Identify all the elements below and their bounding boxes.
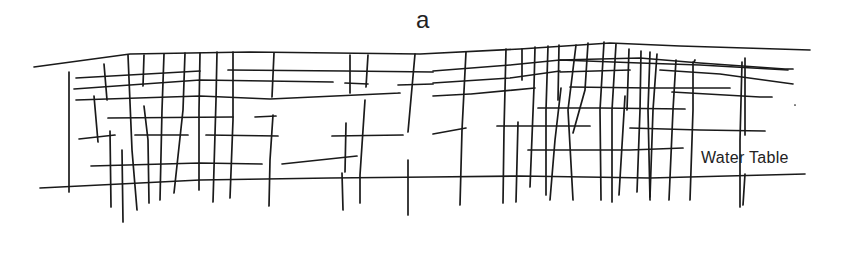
fracture-network-drawing (0, 0, 866, 254)
vertical-fracture (128, 55, 137, 210)
horizontal-fracture (206, 135, 278, 136)
vertical-fracture (558, 45, 559, 100)
vertical-fracture (174, 53, 185, 193)
vertical-fracture (516, 122, 518, 202)
horizontal-fractures (74, 58, 793, 166)
vertical-fracture (110, 131, 111, 207)
vertical-fracture (546, 46, 548, 195)
vertical-fracture (650, 54, 657, 197)
vertical-fracture (743, 174, 745, 205)
vertical-fracture (269, 115, 273, 206)
horizontal-fracture (433, 71, 560, 83)
vertical-fracture (199, 53, 200, 190)
horizontal-fracture (471, 88, 535, 94)
vertical-fracture (94, 96, 98, 142)
horizontal-fracture (560, 70, 630, 72)
horizontal-fracture (228, 70, 433, 72)
horizontal-fracture (76, 71, 200, 78)
horizontal-fracture (74, 80, 333, 89)
horizontal-fracture (332, 135, 403, 136)
fracture-diagram: a Water Table (0, 0, 866, 254)
panel-label: a (416, 6, 429, 34)
vertical-fracture (104, 64, 107, 100)
vertical-fracture (694, 60, 695, 62)
horizontal-fracture (76, 93, 400, 100)
vertical-fracture (160, 54, 164, 200)
vertical-fracture (230, 52, 233, 198)
vertical-fracture (530, 47, 535, 187)
horizontal-fracture (570, 87, 730, 88)
vertical-fracture (122, 150, 123, 222)
vertical-fracture (408, 54, 415, 132)
vertical-fracture (637, 51, 641, 192)
horizontal-fracture (660, 70, 793, 84)
vertical-fracture (143, 55, 144, 86)
vertical-fracture (342, 173, 343, 210)
vertical-fracture (690, 62, 693, 200)
vertical-fracture (366, 55, 368, 87)
horizontal-fracture (398, 84, 433, 85)
vertical-fracture (550, 88, 561, 200)
vertical-fractures (69, 42, 795, 222)
vertical-fracture (272, 53, 274, 97)
horizontal-fracture (345, 83, 368, 84)
water-table-label: Water Table (701, 149, 789, 167)
vertical-fracture (345, 123, 346, 172)
vertical-fracture (740, 62, 742, 207)
vertical-fracture (144, 106, 149, 203)
horizontal-fracture (528, 148, 683, 150)
vertical-fracture (619, 96, 625, 195)
vertical-fracture (360, 100, 365, 203)
vertical-fracture (600, 42, 604, 200)
horizontal-fracture (108, 117, 233, 118)
horizontal-fracture (433, 128, 466, 134)
horizontal-fracture (672, 92, 772, 97)
